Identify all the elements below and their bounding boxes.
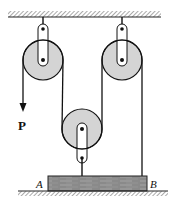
left-fixed-pulley	[23, 17, 63, 80]
force-label-p: P	[18, 118, 26, 133]
ground	[18, 191, 168, 196]
right-fixed-pulley	[102, 17, 142, 80]
pulley-diagram: P A B	[0, 0, 171, 204]
force-arrow-p	[20, 103, 27, 112]
label-b: B	[150, 178, 157, 190]
block-ab	[48, 176, 147, 191]
label-a: A	[35, 178, 43, 190]
ceiling-support	[8, 11, 161, 17]
